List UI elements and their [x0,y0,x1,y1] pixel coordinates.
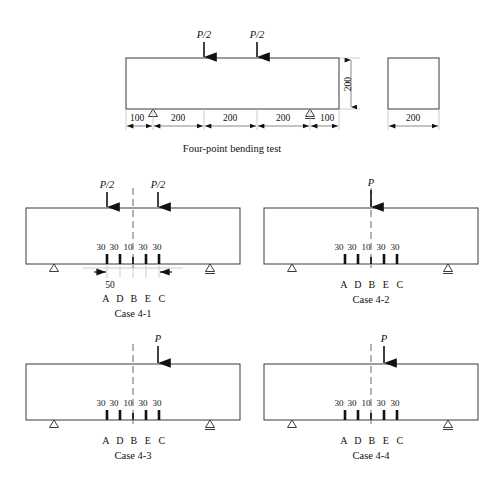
case-4-2-load-label-1: P [367,177,375,188]
engineering-diagram: P/2 P/2 200 100 200 200 200 100 200 Four… [0,0,496,488]
case-4-4-label: Case 4-4 [352,450,390,461]
case-4-1-load-label-1: P/2 [99,179,115,190]
case-4-4-group [264,344,478,430]
case-4-1-gauge-point-e: E [145,293,152,304]
case-4-3-group [26,344,240,430]
case-4-1-gauge-dim-1: 30 [97,242,107,252]
case-4-2-gauge-point-e: E [383,279,390,290]
case-4-3-label: Case 4-3 [114,450,151,461]
case-4-1-gauge-dim-5: 30 [153,242,163,252]
case-4-2-gauge-point-c: C [396,279,403,290]
case-4-2-gauge-point-b: B [368,279,375,290]
case-4-3-gauge-dim-2: 30 [110,398,120,408]
case-4-2-gauge-point-d: D [354,279,362,290]
case-4-3-support-left [50,420,59,428]
case-4-2-support-left [288,264,297,272]
case-4-4-gauge-dim-3: 10 [362,398,372,408]
case-4-2-gauge-point-a: A [340,279,348,290]
top-beam-load-label-1: P/2 [196,29,212,40]
top-beam-load-label-2: P/2 [249,29,265,40]
case-4-4-gauge-dim-2: 30 [348,398,358,408]
case-4-1-label: Case 4-1 [114,308,151,319]
case-4-2-gauge-dim-3: 10 [362,242,372,252]
case-4-4-gauge-dim-1: 30 [335,398,345,408]
case-4-3-gauge-point-c: C [158,435,165,446]
case-4-1-gauge-dim-2: 30 [110,242,120,252]
top-beam-depth-label: 200 [343,77,353,92]
case-4-2-support-right [443,264,453,274]
top-beam-dim-label-1: 100 [130,113,145,123]
case-4-1-extra-dim-label: 50 [105,280,115,290]
case-4-3-support-right [205,420,215,430]
case-4-3-gauge-dim-3: 10 [124,398,134,408]
top-beam-dim-label-4: 200 [276,113,291,123]
figure-root: P/2 P/2 200 100 200 200 200 100 200 Four… [0,0,496,488]
case-4-4-gauge-dim-5: 30 [391,398,401,408]
case-4-1-span-dimension [83,264,183,278]
case-4-3-gauge-point-d: D [116,435,124,446]
top-beam-dim-label-5: 100 [320,113,335,123]
case-4-4-gauge-point-d: D [354,435,362,446]
case-4-3-gauge-dim-1: 30 [97,398,107,408]
case-4-3-gauge-dim-4: 30 [139,398,149,408]
case-4-4-gauge-point-b: B [368,435,375,446]
case-4-2-gauge-dim-2: 30 [348,242,358,252]
case-4-1-gauge-point-d: D [116,293,124,304]
case-4-3-gauge-dim-5: 30 [153,398,163,408]
case-4-2-gauge-dim-1: 30 [335,242,345,252]
top-beam-caption: Four-point bending test [183,143,281,154]
case-4-3-gauge-point-b: B [130,435,137,446]
case-4-1-gauge-dim-4: 30 [139,242,149,252]
case-4-1-gauge-point-c: C [158,293,165,304]
top-beam-dim-label-3: 200 [223,113,238,123]
cross-section-width-label: 200 [406,113,421,123]
case-4-4-gauge-point-c: C [396,435,403,446]
case-4-2-gauge-dim-4: 30 [377,242,387,252]
case-4-3-gauge-point-e: E [145,435,152,446]
top-beam-dim-label-2: 200 [171,113,186,123]
case-4-1-load-label-2: P/2 [150,179,166,190]
case-4-1-support-right [205,264,215,274]
case-4-2-gauge-dim-5: 30 [391,242,401,252]
case-4-1-gauge-dim-3: 10 [124,242,134,252]
case-4-3-load-label-1: P [154,333,162,344]
case-4-3-gauge-point-a: A [102,435,110,446]
case-4-4-gauge-dim-4: 30 [377,398,387,408]
case-4-2-label: Case 4-2 [352,294,389,305]
top-beam-body [126,58,339,109]
case-4-4-gauge-point-a: A [340,435,348,446]
case-4-2-group [264,188,478,274]
case-4-4-load-label-1: P [380,333,388,344]
case-4-1-gauge-point-b: B [130,293,137,304]
case-4-1-support-left [50,264,59,272]
case-4-1-gauge-point-a: A [102,293,110,304]
case-4-4-support-right [443,420,453,430]
case-4-4-gauge-point-e: E [383,435,390,446]
cross-section-body [388,58,439,109]
case-4-4-support-left [288,420,297,428]
case-4-1-group [26,188,240,278]
